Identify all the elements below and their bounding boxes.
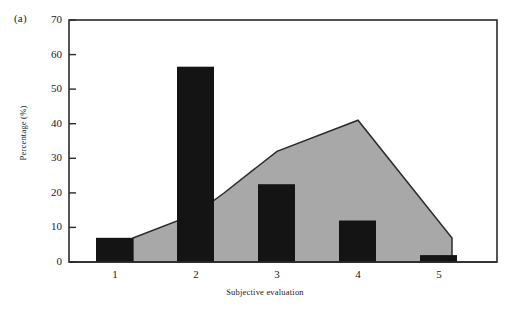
y-axis-ticks: [69, 20, 76, 262]
figure-panel-a: (a) Percentage (%) Subjective evaluation…: [0, 0, 514, 310]
bar-category-1: [96, 238, 133, 262]
bar-category-3: [258, 184, 295, 262]
chart-canvas: [0, 0, 514, 310]
bar-category-4: [339, 221, 376, 263]
bar-category-5: [420, 255, 457, 262]
bar-category-2: [177, 67, 214, 262]
